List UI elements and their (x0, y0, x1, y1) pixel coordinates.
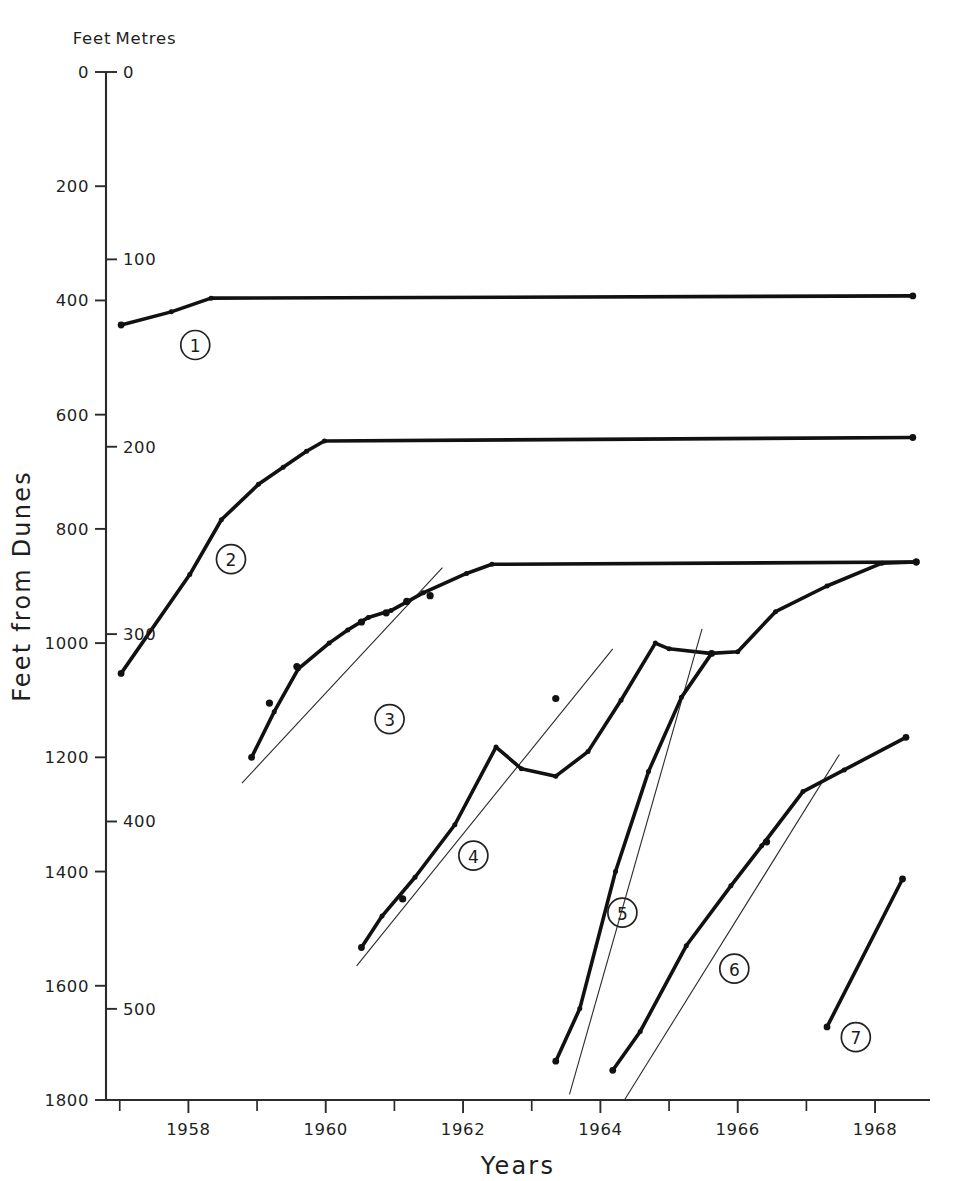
circled-number-text: 2 (226, 550, 237, 570)
y-axis-title: Feet from Dunes (8, 470, 36, 702)
feet-unit-header: Feet (73, 29, 112, 48)
endpoint-marker (909, 292, 916, 299)
data-point (879, 561, 884, 566)
endpoint-marker (708, 650, 715, 657)
endpoint-marker (909, 434, 916, 441)
data-point (209, 296, 214, 301)
x-ticklabel: 1968 (853, 1120, 897, 1139)
data-point (613, 869, 618, 874)
endpoint-marker (118, 670, 125, 677)
y-ticklabel-metres: 500 (123, 1000, 156, 1019)
data-point (327, 641, 332, 646)
scatter-point (266, 699, 273, 706)
y-ticklabel-metres: 400 (123, 812, 156, 831)
data-point (653, 641, 658, 646)
data-point (842, 767, 847, 772)
circled-number-text: 1 (190, 336, 201, 356)
data-point (553, 774, 558, 779)
data-point (304, 449, 309, 454)
y-ticklabel-feet: 1200 (45, 748, 89, 767)
endpoint-marker (899, 876, 906, 883)
endpoint-marker (552, 1058, 559, 1065)
data-point (219, 517, 224, 522)
circled-number-text: 4 (468, 847, 479, 867)
y-ticklabel-feet: 1800 (45, 1091, 89, 1110)
endpoint-marker (824, 1023, 831, 1030)
x-ticklabel: 1960 (304, 1120, 348, 1139)
chart-figure: 1234567 02004006008001000120014001600180… (0, 0, 958, 1181)
x-ticklabel: 1958 (166, 1120, 210, 1139)
data-point (519, 766, 524, 771)
y-ticklabel-feet: 600 (56, 406, 89, 425)
circled-number-text: 3 (384, 710, 395, 730)
data-point (667, 646, 672, 651)
data-point (728, 883, 733, 888)
scatter-point (293, 663, 300, 670)
scatter-point (399, 895, 406, 902)
scatter-point (383, 609, 390, 616)
endpoint-marker (248, 754, 255, 761)
endpoint-marker (609, 1067, 616, 1074)
data-point (281, 465, 286, 470)
data-point (380, 914, 385, 919)
data-point (586, 749, 591, 754)
data-point (800, 789, 805, 794)
data-point (646, 769, 651, 774)
scatter-point (427, 592, 434, 599)
scatter-point (552, 695, 559, 702)
x-ticklabel: 1962 (441, 1120, 485, 1139)
metres-unit-header: Metres (116, 29, 177, 48)
data-point (638, 1029, 643, 1034)
data-point (272, 709, 277, 714)
scatter-point (358, 618, 365, 625)
data-point (825, 584, 830, 589)
data-point (489, 562, 494, 567)
y-ticklabel-metres: 0 (123, 63, 134, 82)
y-ticklabel-feet: 200 (56, 177, 89, 196)
scatter-point (763, 838, 770, 845)
endpoint-marker (913, 559, 920, 566)
y-ticklabel-feet: 1000 (45, 634, 89, 653)
data-point (735, 649, 740, 654)
endpoint-marker (358, 944, 365, 951)
data-point (619, 698, 624, 703)
data-point (366, 615, 371, 620)
data-point (421, 590, 426, 595)
data-point (345, 627, 350, 632)
data-point (413, 875, 418, 880)
scatter-point (403, 598, 410, 605)
circled-number-text: 6 (729, 960, 740, 980)
data-point (759, 843, 764, 848)
x-ticklabel: 1964 (578, 1120, 622, 1139)
data-point (169, 309, 174, 314)
data-point (256, 482, 261, 487)
data-point (577, 1006, 582, 1011)
circled-number-text: 5 (617, 904, 628, 924)
data-point (187, 572, 192, 577)
data-point (773, 609, 778, 614)
y-ticklabel-feet: 800 (56, 520, 89, 539)
data-point (452, 822, 457, 827)
endpoint-marker (118, 322, 125, 329)
y-ticklabel-feet: 1400 (45, 863, 89, 882)
y-ticklabel-metres: 200 (123, 438, 156, 457)
x-ticklabel: 1966 (716, 1120, 760, 1139)
data-point (322, 438, 327, 443)
x-axis-title: Years (480, 1152, 555, 1180)
data-point (684, 943, 689, 948)
dune-recession-line-chart: 1234567 02004006008001000120014001600180… (0, 0, 958, 1181)
y-ticklabel-metres: 300 (123, 625, 156, 644)
data-point (679, 695, 684, 700)
data-point (464, 571, 469, 576)
y-ticklabel-feet: 0 (78, 63, 89, 82)
y-ticklabel-metres: 100 (123, 250, 156, 269)
circled-number-text: 7 (850, 1028, 861, 1048)
y-ticklabel-feet: 400 (56, 291, 89, 310)
endpoint-marker (903, 734, 910, 741)
data-point (494, 745, 499, 750)
y-ticklabel-feet: 1600 (45, 977, 89, 996)
